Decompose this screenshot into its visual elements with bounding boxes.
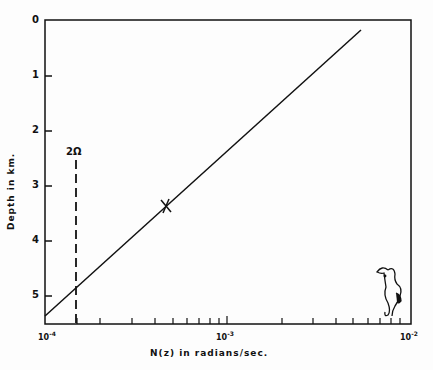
seahorse-illustration [377,268,401,316]
y-tick-3: 3 [32,179,39,190]
y-tick-5: 5 [32,289,39,300]
y-tick-1: 1 [32,69,39,80]
two-omega-label: 2Ω [66,146,81,157]
x-tick-1e-2: 10-2 [400,330,418,342]
x-tick-1e-4: 10-4 [38,330,56,342]
y-ticks [45,76,52,296]
x-ticks [77,316,400,324]
data-line [45,30,361,316]
y-tick-4: 4 [32,234,39,245]
chart: 0 1 2 3 4 5 2Ω 10-4 10-3 10-2 Depth in k… [0,0,433,370]
y-tick-2: 2 [32,124,39,135]
plot-frame [45,20,411,324]
y-axis-label: Depth in km. [6,153,16,230]
x-axis-label: N(z) in radians/sec. [150,348,268,358]
x-marker [161,199,171,213]
plot-area [0,0,433,370]
x-tick-1e-3: 10-3 [216,330,234,342]
y-tick-0: 0 [32,14,39,25]
